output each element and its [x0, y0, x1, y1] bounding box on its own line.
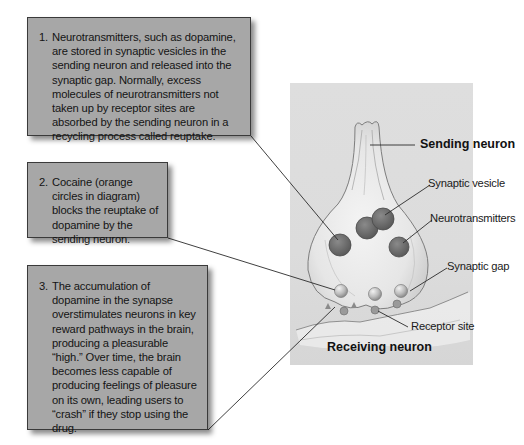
label-neurotransmitters: Neurotransmitters [430, 212, 516, 224]
callout-2-cocaine: 2. Cocaine (orange circles in diagram) b… [27, 162, 168, 238]
callout-number: 2. [39, 175, 52, 246]
cocaine-molecule [395, 285, 408, 298]
callout-number: 3. [39, 279, 52, 435]
label-synaptic-gap: Synaptic gap [447, 260, 509, 272]
callout-text: Neurotransmitters, such as dopamine, are… [52, 30, 240, 144]
sending-neuron-shape [308, 122, 428, 309]
receptor-site [393, 300, 401, 308]
vesicle [389, 237, 409, 257]
dopamine-molecule [325, 303, 331, 309]
label-synaptic-vesicle: Synaptic vesicle [428, 177, 505, 189]
label-receiving-neuron: Receiving neuron [327, 340, 432, 354]
label-sending-neuron: Sending neuron [420, 137, 515, 151]
receptor-site [340, 307, 348, 315]
vesicle [329, 234, 351, 256]
callout-text: Cocaine (orange circles in diagram) bloc… [52, 175, 159, 246]
callout-number: 1. [39, 30, 52, 144]
cocaine-molecule [335, 285, 348, 298]
label-receptor-site: Receptor site [411, 320, 474, 332]
callout-text: The accumulation of dopamine in the syna… [52, 279, 199, 435]
receptor-site [371, 306, 379, 314]
cocaine-molecule [369, 288, 382, 301]
callout-1-neurotransmitters: 1. Neurotransmitters, such as dopamine, … [27, 17, 251, 136]
callout-3-accumulation: 3. The accumulation of dopamine in the s… [27, 265, 208, 430]
